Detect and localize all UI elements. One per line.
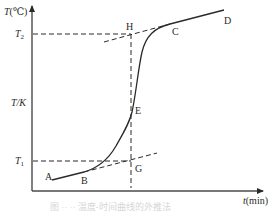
temperature-time-diagram: T(℃) T/K t(min) T2 T1 A B C D E — [0, 0, 268, 213]
t1-label: T1 — [15, 155, 25, 168]
t2-label: T2 — [15, 28, 25, 41]
y-axis-label: T(℃) — [4, 6, 27, 18]
point-d-label: D — [224, 15, 231, 26]
y-axis-mid-label: T/K — [11, 97, 27, 108]
lower-tangent-dashed — [84, 153, 157, 172]
point-c-label: C — [172, 26, 179, 37]
point-e-label: E — [135, 105, 141, 116]
figure-caption: 图 ·· ·· 温度-时间曲线的外推法 — [50, 201, 171, 212]
upper-tangent-dashed — [104, 24, 170, 42]
x-axis-label: t(min) — [243, 195, 268, 207]
point-g-label: G — [135, 163, 142, 174]
diagram-canvas: T(℃) T/K t(min) T2 T1 A B C D E — [0, 0, 268, 213]
point-b-label: B — [81, 175, 88, 186]
point-a-label: A — [45, 171, 53, 182]
point-h-label: H — [126, 21, 133, 32]
temperature-curve — [52, 10, 224, 180]
